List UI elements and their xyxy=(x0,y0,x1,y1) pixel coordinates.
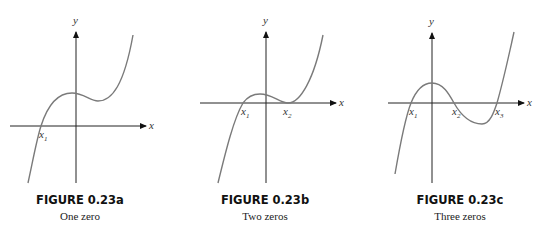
figure-subtitle: Three zeros xyxy=(370,209,539,223)
figure-title: FIGURE 0.23b xyxy=(175,193,355,207)
zero-label-x3: x3 xyxy=(494,105,504,120)
zero-label-x2: x2 xyxy=(451,105,461,120)
x-axis-label: x xyxy=(526,96,532,108)
x-axis-label: x xyxy=(338,96,344,108)
zero-label-x2: x2 xyxy=(282,105,292,120)
zero-label-x1: x1 xyxy=(408,105,417,120)
cubic-zeros-diagram: x y x1 x y x1 x2 x y x1 x2 x3 xyxy=(0,0,539,190)
y-axis-label: y xyxy=(72,14,78,26)
figure-title: FIGURE 0.23a xyxy=(0,193,170,207)
figure-a-caption: FIGURE 0.23a One zero xyxy=(0,193,170,223)
zero-label-x1: x1 xyxy=(38,128,47,143)
zero-label-x1: x1 xyxy=(240,105,249,120)
figure-subtitle: One zero xyxy=(0,209,170,223)
figure-b-caption: FIGURE 0.23b Two zeros xyxy=(175,193,355,223)
y-axis-label: y xyxy=(262,14,268,26)
figure-title: FIGURE 0.23c xyxy=(370,193,539,207)
figure-c-caption: FIGURE 0.23c Three zeros xyxy=(370,193,539,223)
y-axis-label: y xyxy=(428,15,434,27)
figure-b-plot: x y x1 x2 xyxy=(200,14,344,183)
figure-c-plot: x y x1 x2 x3 xyxy=(388,15,532,183)
x-axis-label: x xyxy=(148,119,154,131)
cubic-curve xyxy=(218,35,323,183)
figure-subtitle: Two zeros xyxy=(175,209,355,223)
cubic-curve xyxy=(28,35,133,183)
figure-a-plot: x y x1 xyxy=(10,14,154,183)
